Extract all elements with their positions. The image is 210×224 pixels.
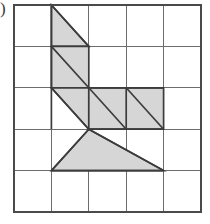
figure-canvas: ) bbox=[0, 0, 210, 224]
grid-figure-svg bbox=[0, 0, 210, 224]
shape-bottom-triangle bbox=[51, 129, 163, 170]
